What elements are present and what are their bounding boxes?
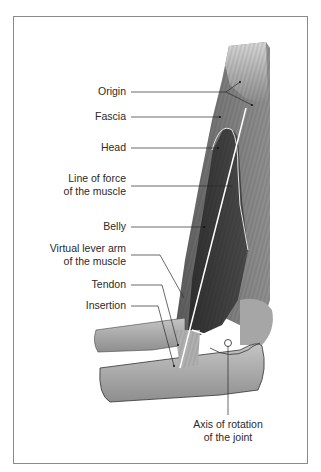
- label-fascia: Fascia: [95, 110, 126, 123]
- label-tendon: Tendon: [92, 278, 126, 291]
- label-axis-1: Axis of rotation: [178, 418, 278, 431]
- axis-of-rotation-marker: [225, 340, 232, 347]
- elbow-joint: [240, 299, 273, 345]
- label-axis-2: of the joint: [178, 431, 278, 444]
- label-insertion: Insertion: [86, 299, 126, 312]
- label-lever-arm-1: Virtual lever arm: [50, 242, 126, 255]
- label-line-of-force-2: of the muscle: [64, 185, 126, 198]
- anatomy-illustration: [0, 0, 321, 472]
- label-belly: Belly: [103, 220, 126, 233]
- label-lever-arm-2: of the muscle: [64, 255, 126, 268]
- radius-bone: [94, 318, 185, 352]
- label-head: Head: [101, 141, 126, 154]
- label-origin: Origin: [98, 85, 126, 98]
- label-line-of-force-1: Line of force: [68, 172, 126, 185]
